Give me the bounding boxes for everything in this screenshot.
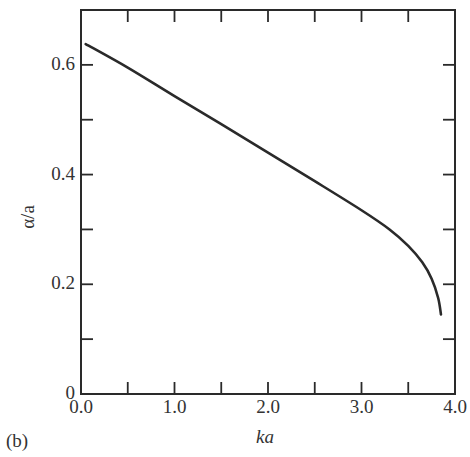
panel-label: (b) — [6, 430, 28, 452]
y-axis-label: α/a — [17, 197, 39, 237]
x-tick-label: 1.0 — [150, 396, 200, 418]
y-tick-label: 0.6 — [25, 53, 75, 75]
x-tick-label: 4.0 — [430, 396, 470, 418]
y-tick-label: 0.2 — [25, 272, 75, 294]
y-tick-label: 0.4 — [25, 163, 75, 185]
x-axis-label: ka — [256, 426, 274, 448]
x-tick-label: 0.0 — [56, 396, 106, 418]
x-tick-label: 3.0 — [337, 396, 387, 418]
x-tick-label: 2.0 — [243, 396, 293, 418]
data-curve — [86, 44, 441, 314]
plot-frame — [81, 10, 455, 394]
axis-ticks — [81, 10, 455, 394]
